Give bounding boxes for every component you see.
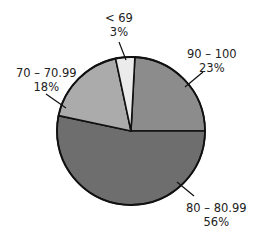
label-70-70.99: 70 – 70.99 18% [16, 66, 77, 94]
leader-80-80.99 [177, 182, 194, 196]
label-80-80.99: 80 – 80.99 56% [186, 201, 247, 229]
label-under-69: < 69 3% [105, 11, 133, 39]
label-90-100: 90 – 100 23% [187, 47, 237, 75]
